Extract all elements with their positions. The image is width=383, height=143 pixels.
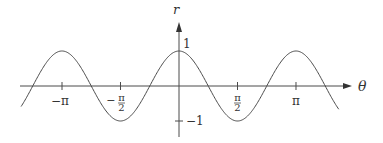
x-tick-label: −π — [51, 94, 69, 108]
x-tick-label: −π2 — [106, 92, 125, 113]
x-tick-label: π — [292, 94, 300, 108]
x-ticks: −π−π2π2π — [51, 82, 300, 113]
y-tick-label: 1 — [183, 37, 191, 51]
polar-cartesian-plot: θ r −π−π2π2π 1−1 — [0, 0, 383, 143]
x-axis-label: θ — [358, 78, 367, 94]
x-axis-arrow-icon — [343, 83, 352, 89]
svg-text:2: 2 — [234, 102, 240, 113]
svg-text:2: 2 — [118, 102, 124, 113]
x-tick-label: π2 — [234, 92, 241, 113]
y-tick-label: −1 — [186, 114, 204, 128]
svg-text:−: − — [106, 94, 115, 107]
y-axis-arrow-icon — [176, 22, 182, 32]
y-axis-label: r — [173, 2, 180, 17]
